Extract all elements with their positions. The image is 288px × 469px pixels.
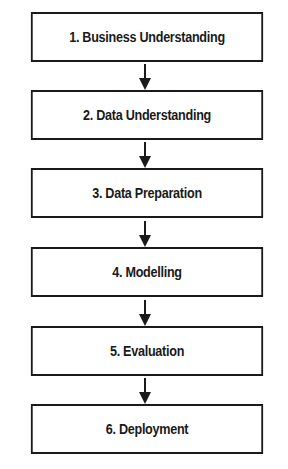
step-label: 6. Deployment	[106, 421, 189, 437]
step-label: 2. Data Understanding	[83, 107, 211, 123]
step-box-5: 5. Evaluation	[31, 326, 263, 376]
step-box-4: 4. Modelling	[31, 247, 263, 297]
arrow-down-icon	[139, 142, 151, 168]
step-box-2: 2. Data Understanding	[31, 90, 263, 140]
arrow-down-icon	[139, 64, 151, 90]
step-label: 3. Data Preparation	[92, 185, 202, 201]
step-box-6: 6. Deployment	[31, 404, 263, 454]
step-label: 5. Evaluation	[110, 343, 184, 359]
arrow-down-icon	[139, 378, 151, 404]
step-label: 1. Business Understanding	[69, 29, 225, 45]
step-label: 4. Modelling	[112, 264, 182, 280]
arrow-down-icon	[139, 300, 151, 326]
step-box-1: 1. Business Understanding	[31, 12, 263, 62]
step-box-3: 3. Data Preparation	[31, 168, 263, 218]
arrow-down-icon	[139, 221, 151, 247]
